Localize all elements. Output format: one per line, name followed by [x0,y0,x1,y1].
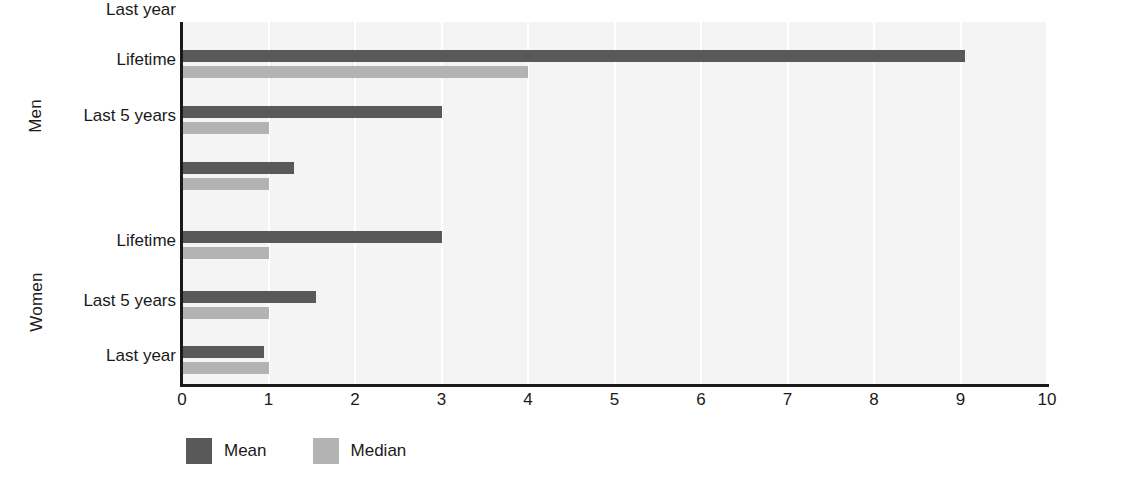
gridline [960,22,962,384]
gridline [873,22,875,384]
category-label-women-lifetime: Lifetime [46,231,176,251]
gridline [787,22,789,384]
bar-median-women-last-year [182,362,269,374]
legend-label-median: Median [351,441,407,461]
category-label-women-lastyear: Last year [46,346,176,366]
legend-item-median[interactable]: Median [313,438,407,464]
bar-median-men-last-year [182,178,269,190]
x-axis-tick-labels: 012345678910 [0,390,1138,418]
legend-label-mean: Mean [224,441,267,461]
category-label-women-last5years: Last 5 years [46,291,176,311]
x-tick-label-8: 8 [854,390,894,410]
bar-mean-men-lifetime [182,50,965,62]
y-axis-line [180,22,183,384]
bar-median-women-lifetime [182,247,269,259]
x-tick-label-3: 3 [422,390,462,410]
bar-median-women-last-5-years [182,307,269,319]
bar-median-men-lifetime [182,66,528,78]
bar-mean-women-last-year [182,346,264,358]
x-tick-label-10: 10 [1027,390,1067,410]
x-tick-label-5: 5 [595,390,635,410]
legend-swatch-median [313,438,339,464]
category-label-men-lifetime: Lifetime [46,50,176,70]
chart-legend: MeanMedian [186,438,406,464]
x-tick-label-2: 2 [335,390,375,410]
x-tick-label-9: 9 [941,390,981,410]
x-tick-label-7: 7 [768,390,808,410]
x-axis-line [180,384,1049,387]
plot-area [182,22,1047,384]
category-label-column: Lifetime Last 5 years Last year Lifetime… [40,0,176,380]
category-label-men-last5years: Last 5 years [46,106,176,126]
gridline [1046,22,1048,384]
x-tick-label-1: 1 [249,390,289,410]
bar-mean-men-last-year [182,162,294,174]
legend-item-mean[interactable]: Mean [186,438,267,464]
bar-mean-men-last-5-years [182,106,442,118]
category-label-men-lastyear: Last year [46,0,176,20]
x-tick-label-0: 0 [162,390,202,410]
legend-swatch-mean [186,438,212,464]
bar-mean-women-last-5-years [182,291,316,303]
chart-container: Men Women Lifetime Last 5 years Last yea… [0,0,1138,488]
gridline [700,22,702,384]
gridline [614,22,616,384]
bar-median-men-last-5-years [182,122,269,134]
bar-mean-women-lifetime [182,231,442,243]
x-tick-label-4: 4 [508,390,548,410]
x-tick-label-6: 6 [681,390,721,410]
